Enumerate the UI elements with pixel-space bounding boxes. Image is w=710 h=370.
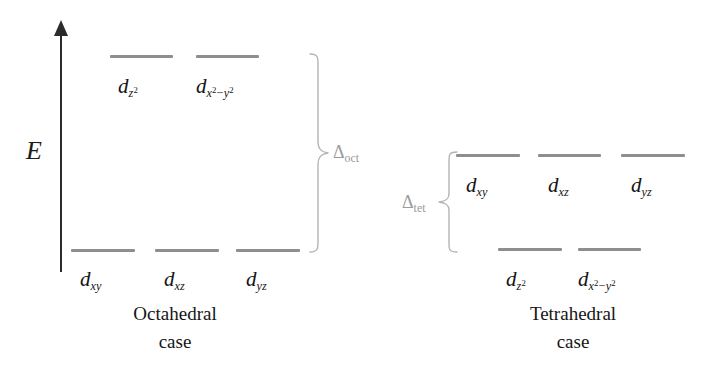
energy-axis-arrowhead-icon <box>54 20 68 36</box>
octahedral-caption-line-1: Octahedral <box>115 300 235 328</box>
orbital-label-tet-upper-dxy: dxy <box>466 175 488 198</box>
tetrahedral-splitting-label: Δtet <box>402 193 425 214</box>
delta-symbol: Δ <box>402 192 414 212</box>
octahedral-lower-level-bar-dyz <box>236 249 300 252</box>
delta-symbol: Δ <box>333 142 345 162</box>
orbital-label-oct-lower-dyz: dyz <box>246 269 267 292</box>
orbital-base-letter: d <box>118 74 129 98</box>
orbital-minus-sign: − <box>599 279 606 293</box>
orbital-base-letter: d <box>548 173 559 197</box>
tetrahedral-splitting-brace <box>435 150 461 254</box>
tetrahedral-lower-level-bar-dz2 <box>498 248 562 251</box>
tetrahedral-caption-line-2: case <box>508 328 638 356</box>
crystal-field-splitting-figure: E dz2 dx2−y2 dxy dxz dyz Octahedral case… <box>0 0 710 370</box>
octahedral-lower-level-bar-dxy <box>71 249 135 252</box>
orbital-subscript: xy <box>477 185 488 199</box>
orbital-base-letter: d <box>196 74 207 98</box>
energy-axis-shaft <box>60 32 62 272</box>
tetrahedral-upper-level-bar-dxz <box>538 154 601 157</box>
orbital-label-tet-upper-dyz: dyz <box>631 175 652 198</box>
orbital-base-letter: d <box>631 173 642 197</box>
octahedral-caption-line-2: case <box>115 328 235 356</box>
orbital-exponent: 2 <box>133 85 138 95</box>
tetrahedral-caption-line-1: Tetrahedral <box>508 300 638 328</box>
octahedral-splitting-label: Δoct <box>333 143 359 164</box>
energy-axis-label: E <box>26 136 42 166</box>
tetrahedral-case-caption: Tetrahedral case <box>508 300 638 355</box>
orbital-label-tet-lower-dz2: dz2 <box>506 269 526 292</box>
orbital-label-oct-upper-dz2: dz2 <box>118 76 138 99</box>
octahedral-upper-level-bar-dx2y2 <box>196 55 259 58</box>
orbital-subscript: x2−y2 <box>207 86 234 100</box>
orbital-subscript: xz <box>175 279 186 293</box>
tetrahedral-upper-level-bar-dyz <box>621 154 685 157</box>
orbital-exponent-2: 2 <box>229 85 234 95</box>
orbital-subscript: z2 <box>517 279 527 293</box>
orbital-base-letter: d <box>246 267 257 291</box>
orbital-subscript: yz <box>257 279 268 293</box>
octahedral-splitting-brace <box>307 52 333 254</box>
octahedral-upper-level-bar-dz2 <box>110 55 173 58</box>
tetrahedral-lower-level-bar-dx2y2 <box>578 248 641 251</box>
orbital-minus-sign: − <box>217 86 224 100</box>
orbital-base-letter: d <box>164 267 175 291</box>
orbital-exponent-2: 2 <box>611 278 616 288</box>
orbital-subscript: z2 <box>129 86 139 100</box>
orbital-subscript: x2−y2 <box>589 279 616 293</box>
delta-subscript: tet <box>414 201 426 215</box>
orbital-exponent: 2 <box>521 278 526 288</box>
orbital-label-oct-lower-dxz: dxz <box>164 269 185 292</box>
octahedral-case-caption: Octahedral case <box>115 300 235 355</box>
orbital-subscript: yz <box>642 185 653 199</box>
orbital-base-letter: d <box>466 173 477 197</box>
orbital-subscript: xz <box>559 185 570 199</box>
tetrahedral-upper-level-bar-dxy <box>456 154 520 157</box>
orbital-base-letter: d <box>506 267 517 291</box>
orbital-base-letter: d <box>80 267 91 291</box>
orbital-label-tet-upper-dxz: dxz <box>548 175 569 198</box>
delta-subscript: oct <box>345 151 360 165</box>
orbital-base-letter: d <box>578 267 589 291</box>
orbital-label-oct-lower-dxy: dxy <box>80 269 102 292</box>
orbital-label-oct-upper-dx2y2: dx2−y2 <box>196 76 234 99</box>
octahedral-lower-level-bar-dxz <box>155 249 219 252</box>
orbital-subscript: xy <box>91 279 102 293</box>
orbital-label-tet-lower-dx2y2: dx2−y2 <box>578 269 616 292</box>
